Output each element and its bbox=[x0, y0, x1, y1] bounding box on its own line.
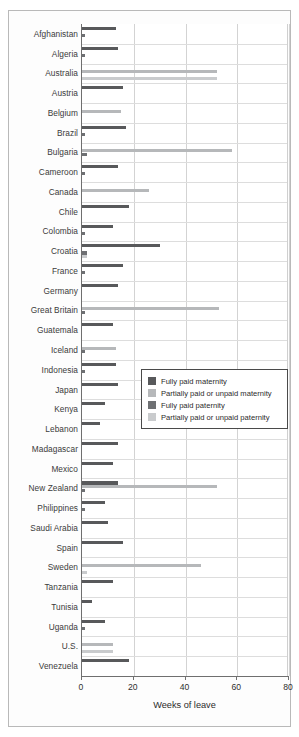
bar-group: Madagascar bbox=[82, 439, 287, 459]
x-tick-label: 80 bbox=[283, 682, 293, 692]
bar-fm bbox=[82, 383, 118, 386]
x-tick-label: 20 bbox=[128, 682, 138, 692]
bar-fm bbox=[82, 323, 113, 326]
bar-fp bbox=[82, 34, 85, 37]
bar-fp bbox=[82, 350, 85, 353]
bar-fm bbox=[82, 27, 116, 30]
bar-fm bbox=[82, 402, 105, 405]
bar-fm bbox=[82, 462, 113, 465]
bar-group: Austria bbox=[82, 83, 287, 103]
category-label: Sweden bbox=[10, 557, 78, 577]
bar-group: U.S. bbox=[82, 636, 287, 656]
category-label: Spain bbox=[10, 538, 78, 558]
legend-swatch-icon bbox=[148, 401, 156, 409]
legend-label: Fully paid maternity bbox=[161, 377, 227, 386]
legend-label: Partially paid or unpaid maternity bbox=[161, 389, 272, 398]
category-label: Iceland bbox=[10, 340, 78, 360]
x-axis-title: Weeks of leave bbox=[81, 700, 288, 710]
bar-fm bbox=[82, 126, 126, 129]
bar-pm bbox=[82, 347, 116, 350]
bar-fm bbox=[82, 264, 123, 267]
bar-pm bbox=[82, 149, 232, 152]
bar-group: Spain bbox=[82, 538, 287, 558]
category-label: Philippines bbox=[10, 498, 78, 518]
bar-group: Brazil bbox=[82, 123, 287, 143]
x-tick-label: 0 bbox=[79, 682, 84, 692]
bar-pm bbox=[82, 307, 219, 310]
chart-figure: AfghanistanAlgeriaAustraliaAustriaBelgiu… bbox=[8, 10, 291, 727]
category-label: Austria bbox=[10, 83, 78, 103]
bar-fm bbox=[82, 442, 118, 445]
category-label: Croatia bbox=[10, 241, 78, 261]
category-label: Afghanistan bbox=[10, 24, 78, 44]
bar-group: Saudi Arabia bbox=[82, 518, 287, 538]
bar-group: Tunisia bbox=[82, 597, 287, 617]
bar-group: Venezuela bbox=[82, 656, 287, 676]
bar-group: Afghanistan bbox=[82, 24, 287, 44]
bar-fp bbox=[82, 508, 85, 511]
category-label: Bulgaria bbox=[10, 143, 78, 163]
bar-fp bbox=[82, 232, 85, 235]
bar-group: Bulgaria bbox=[82, 143, 287, 163]
category-label: Algeria bbox=[10, 44, 78, 64]
category-label: Australia bbox=[10, 64, 78, 84]
category-label: Indonesia bbox=[10, 360, 78, 380]
bar-pp bbox=[82, 650, 113, 653]
bar-fp bbox=[82, 489, 85, 492]
bar-group: Philippines bbox=[82, 498, 287, 518]
bar-fm bbox=[82, 205, 129, 208]
category-label: Chile bbox=[10, 202, 78, 222]
bar-fm bbox=[82, 244, 160, 247]
bar-pm bbox=[82, 110, 121, 113]
category-label: Venezuela bbox=[10, 656, 78, 676]
bar-group: Tanzania bbox=[82, 577, 287, 597]
legend-item: Fully paid paternity bbox=[148, 399, 283, 411]
category-label: U.S. bbox=[10, 636, 78, 656]
bar-group: New Zealand bbox=[82, 478, 287, 498]
bar-fm bbox=[82, 284, 118, 287]
bar-group: France bbox=[82, 261, 287, 281]
bar-group: Sweden bbox=[82, 557, 287, 577]
x-tick bbox=[288, 676, 289, 680]
category-label: Great Britain bbox=[10, 301, 78, 321]
category-label: Cameroon bbox=[10, 162, 78, 182]
bar-fm bbox=[82, 600, 92, 603]
bar-fm bbox=[82, 86, 123, 89]
category-label: Kenya bbox=[10, 399, 78, 419]
bar-fp bbox=[82, 311, 85, 314]
bar-fm bbox=[82, 580, 113, 583]
legend-item: Fully paid maternity bbox=[148, 375, 283, 387]
category-label: Madagascar bbox=[10, 439, 78, 459]
legend-swatch-icon bbox=[148, 377, 156, 385]
bar-group: Uganda bbox=[82, 617, 287, 637]
bar-pm bbox=[82, 485, 217, 488]
bar-group: Mexico bbox=[82, 459, 287, 479]
bar-group: Guatemala bbox=[82, 320, 287, 340]
x-tick bbox=[236, 676, 237, 680]
bar-group: Canada bbox=[82, 182, 287, 202]
category-label: Uganda bbox=[10, 617, 78, 637]
x-tick-label: 40 bbox=[180, 682, 190, 692]
category-label: Guatemala bbox=[10, 320, 78, 340]
category-label: Japan bbox=[10, 380, 78, 400]
bar-group: Chile bbox=[82, 202, 287, 222]
bar-group: Colombia bbox=[82, 222, 287, 242]
bar-group: Belgium bbox=[82, 103, 287, 123]
bar-group: Iceland bbox=[82, 340, 287, 360]
bar-fm bbox=[82, 422, 100, 425]
gridline-vertical bbox=[289, 24, 290, 676]
bar-pp bbox=[82, 571, 87, 574]
x-tick bbox=[133, 676, 134, 680]
x-tick bbox=[185, 676, 186, 680]
category-label: Saudi Arabia bbox=[10, 518, 78, 538]
bar-fm bbox=[82, 501, 105, 504]
bar-pp bbox=[82, 77, 217, 80]
bar-fp bbox=[82, 370, 85, 373]
bar-fp bbox=[82, 54, 85, 57]
bar-pm bbox=[82, 643, 113, 646]
category-label: New Zealand bbox=[10, 478, 78, 498]
bar-pm bbox=[82, 189, 149, 192]
category-label: Belgium bbox=[10, 103, 78, 123]
bar-group: Australia bbox=[82, 64, 287, 84]
bar-fm bbox=[82, 225, 113, 228]
